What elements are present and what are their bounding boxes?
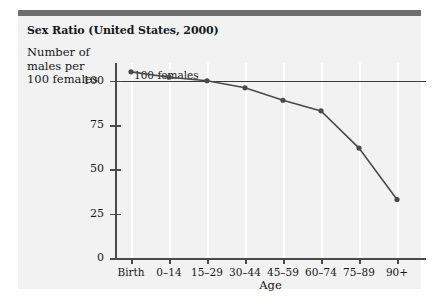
y-axis-tick-label: 75 [90,118,104,131]
x-axis-tick-label: Birth [117,266,144,278]
y-axis-tick-label: 50 [90,162,104,175]
x-axis-tick-label: 60–74 [305,266,337,278]
title-rule [18,10,421,16]
x-axis-tick [283,258,285,264]
x-axis-tick-label: 90+ [386,266,408,278]
data-point [204,78,209,83]
plot-area: 100 females [115,63,410,258]
x-axis-tick-label: 0–14 [156,266,181,278]
series-line [115,63,410,258]
x-axis-title: Age [115,278,426,292]
x-axis-tick [359,258,361,264]
y-axis-tick: 25 [110,214,121,216]
data-point [394,197,399,202]
x-axis-tick [207,258,209,264]
data-point [166,75,171,80]
x-axis-tick-label: 45–59 [267,266,299,278]
data-point [356,145,361,150]
data-point [242,85,247,90]
data-point [280,98,285,103]
y-axis-tick-label: 100 [83,74,104,87]
chart-screenshot: Sex Ratio (United States, 2000) Number o… [0,0,439,306]
x-axis-tick-label: 75–89 [343,266,375,278]
x-axis-tick [245,258,247,264]
figure-panel: Sex Ratio (United States, 2000) Number o… [18,10,421,289]
y-axis-tick-label: 0 [97,251,104,264]
y-axis: 0255075100 [115,63,117,259]
data-point [128,69,133,74]
x-axis: Birth0–1415–2930–4445–5960–7475–8990+ [115,258,426,260]
x-axis-tick-label: 15–29 [191,266,223,278]
x-axis-tick [397,258,399,264]
x-axis-tick [131,258,133,264]
y-axis-tick-label: 25 [90,207,104,220]
y-axis-tick: 100 [110,81,121,83]
data-point [318,108,323,113]
x-axis-tick-label: 30–44 [229,266,261,278]
chart-title: Sex Ratio (United States, 2000) [27,24,219,37]
x-axis-tick [169,258,171,264]
x-axis-tick [321,258,323,264]
y-axis-tick: 50 [110,169,121,171]
y-axis-tick: 75 [110,125,121,127]
